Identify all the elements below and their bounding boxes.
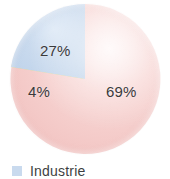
pie-chart-figure: 27% 4% 69% Industrie bbox=[0, 0, 170, 179]
legend-item-industrie: Industrie bbox=[12, 163, 86, 179]
chart-legend: Industrie bbox=[12, 163, 86, 179]
slice-label-4: 4% bbox=[28, 83, 50, 100]
legend-swatch-industrie bbox=[12, 166, 22, 176]
pie-chart bbox=[9, 3, 161, 155]
slice-label-27: 27% bbox=[40, 42, 71, 59]
slice-label-69: 69% bbox=[106, 83, 137, 100]
legend-label-industrie: Industrie bbox=[30, 163, 86, 179]
